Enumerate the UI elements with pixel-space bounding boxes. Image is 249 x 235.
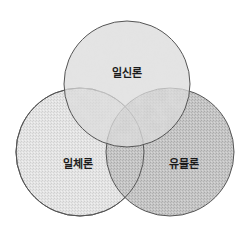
label-ilcheron: 일체론 <box>63 157 93 171</box>
venn-diagram: 일신론 일체론 유물론 <box>0 0 249 235</box>
label-yumulron: 유물론 <box>169 158 199 171</box>
label-ilsinron: 일신론 <box>112 66 142 80</box>
